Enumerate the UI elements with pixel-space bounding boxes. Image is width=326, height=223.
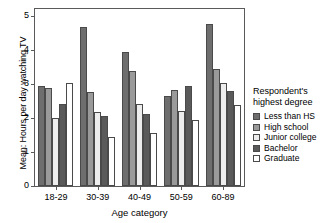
bar [192,120,199,186]
bar [185,86,192,186]
bar [38,86,45,186]
legend-item[interactable]: Less than HS [253,112,326,121]
legend: Respondent's highest degree Less than HS… [253,86,326,165]
bar-group [120,9,160,186]
bar [164,96,171,186]
bar [143,114,150,187]
bar-chart: Mean: Hours per day watching TV 012345 1… [0,0,326,223]
bar [220,83,227,186]
bar [108,137,115,186]
plot-area: 012345 18-2930-3940-4950-5960-89 [34,8,245,187]
legend-swatch-icon [253,145,260,152]
bar [136,104,143,186]
legend-label: Bachelor [264,144,298,153]
bar [94,112,101,186]
bar [234,105,241,186]
bar [52,118,59,186]
bar [59,104,66,186]
bar [101,116,108,186]
bar [87,92,94,186]
legend-swatch-icon [253,113,260,120]
y-tick-mark [31,118,35,119]
legend-title-line2: highest degree [253,97,326,108]
legend-items: Less than HSHigh schoolJunior collegeBac… [253,112,326,163]
x-tick-mark [140,186,141,190]
y-tick-label: 4 [24,44,29,54]
y-tick-label: 2 [24,112,29,122]
x-tick-mark [181,186,182,190]
bar [129,71,136,186]
bar-group [78,9,118,186]
bar-group [161,9,201,186]
y-tick-mark [31,186,35,187]
bar [227,91,234,186]
y-tick-mark [31,84,35,85]
bar [122,52,129,186]
legend-label: Graduate [264,154,299,163]
x-tick-mark [98,186,99,190]
legend-swatch-icon [253,155,260,162]
bar [45,88,52,186]
bar [66,83,73,186]
legend-title: Respondent's highest degree [253,86,326,107]
legend-item[interactable]: Bachelor [253,144,326,153]
legend-label: High school [264,123,308,132]
bar [178,111,185,186]
legend-swatch-icon [253,134,260,141]
y-tick-label: 5 [24,10,29,20]
bar [206,24,213,186]
bar [171,90,178,186]
cropped-title [90,0,210,4]
x-tick-mark [223,186,224,190]
y-tick-mark [31,50,35,51]
legend-label: Less than HS [264,112,315,121]
bars-container [35,9,244,186]
x-tick-label: 60-89 [196,192,250,202]
bar [80,27,87,186]
legend-swatch-icon [253,124,260,131]
y-tick-label: 1 [24,146,29,156]
y-tick-mark [31,16,35,17]
y-tick-mark [31,152,35,153]
bar-group [203,9,243,186]
x-axis-label: Age category [34,207,245,218]
y-tick-label: 0 [24,180,29,190]
legend-label: Junior college [264,133,316,142]
bar [213,69,220,186]
bar [150,133,157,186]
legend-item[interactable]: Junior college [253,133,326,142]
bar-group [36,9,76,186]
y-tick-label: 3 [24,78,29,88]
legend-item[interactable]: Graduate [253,154,326,163]
legend-item[interactable]: High school [253,123,326,132]
legend-title-line1: Respondent's [253,86,326,97]
x-tick-mark [56,186,57,190]
